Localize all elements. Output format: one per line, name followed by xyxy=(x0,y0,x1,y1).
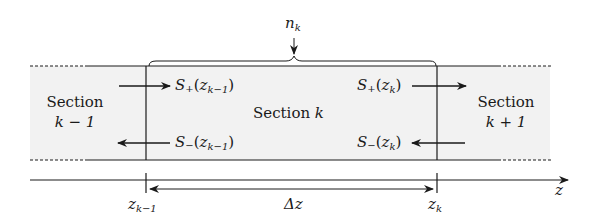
tick-label-z-k-minus-1: zk−1 xyxy=(128,197,157,214)
section-left-label: Section k − 1 xyxy=(40,92,110,132)
delta-z-label: Δz xyxy=(284,197,303,212)
s-plus-right-label: S+(zk) xyxy=(357,78,401,95)
brace xyxy=(149,56,436,66)
index-label: nk xyxy=(285,16,301,33)
s-plus-left-label: S+(zk−1) xyxy=(175,78,234,95)
s-minus-right-label: S−(zk) xyxy=(357,135,401,152)
section-right-label: Section k + 1 xyxy=(470,92,542,132)
s-minus-left-label: S−(zk−1) xyxy=(175,135,234,152)
z-axis-label: z xyxy=(555,183,563,198)
section-middle-label: Section k xyxy=(253,106,324,121)
tick-label-z-k: zk xyxy=(428,197,442,214)
